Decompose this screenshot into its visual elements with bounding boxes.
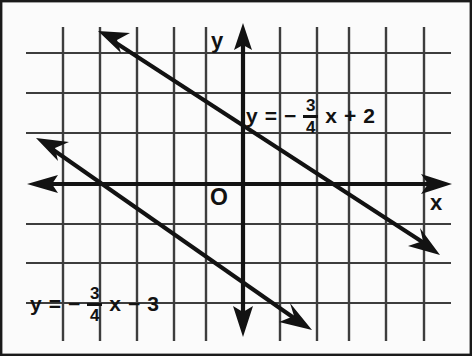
equation-label-line-2: y = − 3 4 x − 3 <box>30 284 159 323</box>
eq2-variable: x <box>109 293 121 314</box>
x-axis-label: x <box>430 192 442 214</box>
equation-label-line-1: y = − 3 4 x + 2 <box>246 96 375 135</box>
eq2-denominator: 4 <box>88 306 101 324</box>
eq2-operator: − <box>128 293 140 314</box>
eq1-constant: 2 <box>363 105 375 126</box>
origin-label: O <box>210 186 228 209</box>
y-axis-label: y <box>211 30 223 52</box>
eq1-fraction: 3 4 <box>303 97 318 136</box>
y-axis <box>233 23 253 337</box>
eq1-numerator: 3 <box>304 97 317 115</box>
eq2-y: y <box>30 293 42 314</box>
eq1-y: y <box>246 105 258 126</box>
horizontal-gridlines <box>26 53 451 303</box>
eq2-minus: − <box>68 293 80 314</box>
line-2-arrow-lower-right <box>279 303 312 330</box>
eq2-numerator: 3 <box>88 285 101 303</box>
plotted-line-1 <box>98 31 440 255</box>
eq2-fraction: 3 4 <box>87 285 102 324</box>
eq1-minus: − <box>284 105 296 126</box>
eq2-constant: 3 <box>147 293 159 314</box>
eq2-equals: = <box>49 293 61 314</box>
eq1-equals: = <box>265 105 277 126</box>
eq1-denominator: 4 <box>304 118 317 136</box>
coordinate-graph-figure: y x O y = − 3 4 x + 2 y = − 3 4 <box>0 0 472 356</box>
eq1-operator: + <box>344 105 356 126</box>
eq1-variable: x <box>325 105 337 126</box>
